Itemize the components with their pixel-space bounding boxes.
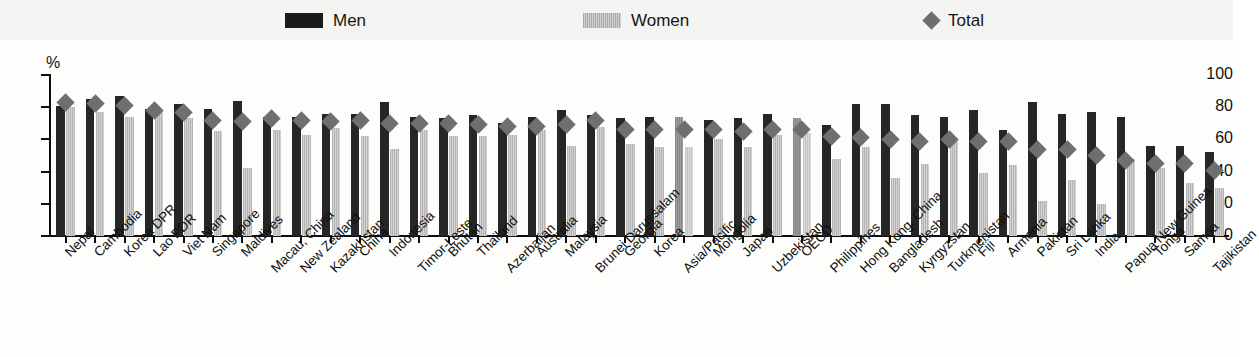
bar-women	[773, 135, 782, 236]
bar-men	[969, 110, 978, 236]
bar-women	[685, 147, 694, 236]
legend-label-women: Women	[631, 12, 689, 29]
bar-group	[380, 75, 399, 236]
bar-group	[56, 75, 75, 236]
bar-series-container	[51, 75, 1229, 236]
x-axis-tick	[418, 237, 420, 243]
bar-women	[832, 159, 841, 236]
bar-women	[1009, 165, 1018, 236]
bar-group	[469, 75, 488, 236]
legend-item-women: Women	[583, 8, 689, 32]
y-axis-tick	[41, 203, 51, 205]
women-swatch-icon	[583, 13, 621, 28]
bar-group	[763, 75, 782, 236]
bar-group	[1146, 75, 1165, 236]
bar-group	[616, 75, 635, 236]
x-axis-tick	[1037, 237, 1039, 243]
bar-group	[1058, 75, 1077, 236]
x-axis-tick	[506, 237, 508, 243]
bar-group	[675, 75, 694, 236]
bar-group	[498, 75, 517, 236]
bar-group	[704, 75, 723, 236]
bar-group	[822, 75, 841, 236]
total-diamond-icon	[922, 11, 940, 29]
y-axis-tick	[41, 138, 51, 140]
legend-label-total: Total	[948, 12, 984, 29]
bar-men	[115, 96, 124, 236]
x-axis-tick	[595, 237, 597, 243]
bar-men	[292, 117, 301, 236]
bar-men	[439, 118, 448, 236]
bar-group	[1117, 75, 1136, 236]
bar-men	[56, 106, 65, 236]
legend-label-men: Men	[333, 12, 366, 29]
plot-area: % 100806040200 NepalCambodiaKorea DPRLao…	[0, 40, 1233, 357]
x-axis-tick	[1125, 237, 1127, 243]
bar-group	[1205, 75, 1224, 236]
x-axis-labels: NepalCambodiaKorea DPRLao PDRViet NamSin…	[0, 245, 1233, 357]
bar-women	[66, 107, 75, 236]
bar-women	[538, 130, 547, 236]
y-axis-tick	[41, 74, 51, 76]
x-axis-tick	[1213, 237, 1215, 243]
legend-item-total: Total	[925, 8, 984, 32]
bar-women	[479, 136, 488, 236]
bar-women	[390, 149, 399, 236]
bar-women	[449, 136, 458, 236]
x-axis-tick	[1007, 237, 1009, 243]
x-axis-tick	[124, 237, 126, 243]
bar-men	[86, 99, 95, 236]
bar-group	[881, 75, 900, 236]
bar-group	[292, 75, 311, 236]
x-axis-tick	[742, 237, 744, 243]
bar-group	[940, 75, 959, 236]
x-axis-tick	[1184, 237, 1186, 243]
x-axis-tick	[772, 237, 774, 243]
x-axis-tick	[683, 237, 685, 243]
bar-group	[793, 75, 812, 236]
bar-men	[1117, 117, 1126, 236]
bar-women	[1127, 159, 1136, 236]
bar-men	[852, 104, 861, 236]
x-axis-tick	[183, 237, 185, 243]
x-axis-tick	[271, 237, 273, 243]
y-axis-unit-label: %	[46, 54, 60, 72]
y-axis-tick	[41, 235, 51, 237]
legend-item-men: Men	[285, 8, 366, 32]
bar-group	[969, 75, 988, 236]
x-axis-tick	[389, 237, 391, 243]
bar-women	[361, 136, 370, 236]
x-axis-tick	[654, 237, 656, 243]
bar-women	[302, 135, 311, 236]
bar-men	[881, 104, 890, 236]
bar-group	[852, 75, 871, 236]
x-axis-tick	[94, 237, 96, 243]
x-axis-tick	[65, 237, 67, 243]
bar-group	[439, 75, 458, 236]
y-axis-tick	[41, 106, 51, 108]
bar-group	[587, 75, 606, 236]
bar-women	[950, 141, 959, 236]
x-axis-tick	[830, 237, 832, 243]
bar-group	[1028, 75, 1047, 236]
men-swatch-icon	[285, 13, 323, 28]
bar-women	[96, 112, 105, 236]
x-axis-tick	[153, 237, 155, 243]
bar-group	[557, 75, 576, 236]
bar-men	[469, 115, 478, 236]
bar-group	[263, 75, 282, 236]
bar-women	[803, 133, 812, 236]
bar-group	[528, 75, 547, 236]
bar-group	[86, 75, 105, 236]
y-axis-tick	[41, 171, 51, 173]
chart-legend: Men Women Total	[0, 0, 1233, 40]
